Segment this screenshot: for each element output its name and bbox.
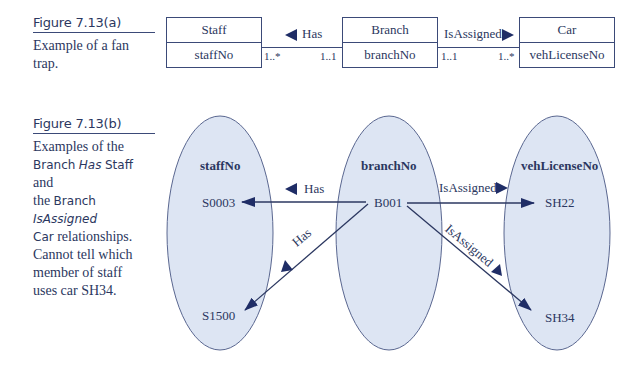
has-direction-left-icon [285,183,297,195]
staff-member: S0003 [202,195,235,211]
staff-member: S1500 [202,308,235,324]
has-link-label: Has [304,181,324,197]
staff-set-title: staffNo [200,158,240,174]
car-set-title: vehLicenseNo [521,158,598,174]
isassigned-link-label: IsAssigned [439,180,497,196]
branch-set-ellipse [336,116,442,350]
car-member: SH34 [545,310,575,326]
has-diagonal-direction-icon [281,260,293,272]
branch-member: B001 [374,195,402,211]
car-member: SH22 [545,195,575,211]
isassigned-direction-right-icon [496,182,508,194]
isassigned-diagonal-direction-icon [491,264,502,276]
branch-set-title: branchNo [361,158,417,174]
